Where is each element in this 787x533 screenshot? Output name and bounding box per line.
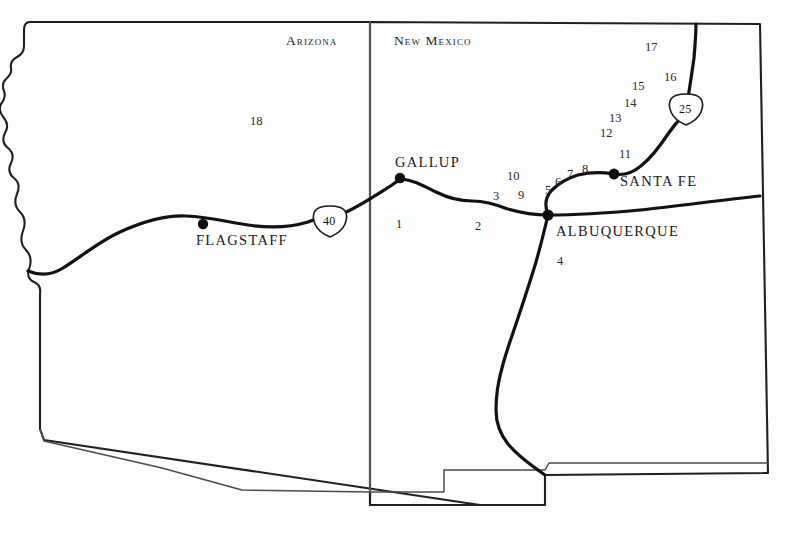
site-number-8: 8: [582, 163, 588, 176]
site-number-12: 12: [600, 127, 613, 140]
state-label-new-mexico: New Mexico: [394, 34, 472, 48]
new-mexico-outline: [370, 22, 768, 505]
interstate-40-shield-label: 40: [323, 215, 336, 227]
site-number-16: 16: [664, 71, 677, 84]
interstate-25-shield-label: 25: [679, 103, 692, 115]
site-number-2: 2: [475, 220, 481, 233]
site-number-1: 1: [396, 218, 402, 231]
city-label-albuquerque: ALBUQUERQUE: [556, 224, 679, 239]
interstate-25-route-top: [688, 24, 696, 98]
interstate-25-route-south: [496, 215, 548, 475]
site-number-4: 4: [557, 255, 563, 268]
new-mexico-southern-border: [444, 463, 768, 492]
site-number-18: 18: [250, 115, 263, 128]
site-number-11: 11: [619, 148, 631, 161]
arizona-southern-border: [40, 429, 370, 492]
site-number-10: 10: [507, 170, 520, 183]
site-number-15: 15: [632, 80, 645, 93]
site-number-7: 7: [567, 168, 573, 181]
flagstaff-dot: [198, 219, 208, 229]
interstate-40-route-mid: [344, 179, 401, 213]
interstate-40-route-east: [401, 179, 760, 215]
city-label-gallup: GALLUP: [395, 155, 460, 170]
site-number-9: 9: [518, 189, 524, 202]
site-number-5: 5: [545, 184, 551, 197]
gallup-dot: [395, 173, 405, 183]
site-number-14: 14: [624, 97, 637, 110]
site-number-13: 13: [609, 112, 622, 125]
city-label-flagstaff: FLAGSTAFF: [196, 233, 288, 248]
map-canvas: Arizona New Mexico FLAGSTAFF GALLUP ALBU…: [0, 0, 787, 533]
albuquerque-dot: [542, 209, 553, 220]
santa-fe-dot: [609, 169, 620, 180]
site-number-6: 6: [555, 176, 561, 189]
site-number-17: 17: [645, 41, 658, 54]
city-label-santa-fe: SANTA FE: [620, 174, 697, 189]
site-number-3: 3: [493, 190, 499, 203]
state-label-arizona: Arizona: [286, 34, 337, 48]
